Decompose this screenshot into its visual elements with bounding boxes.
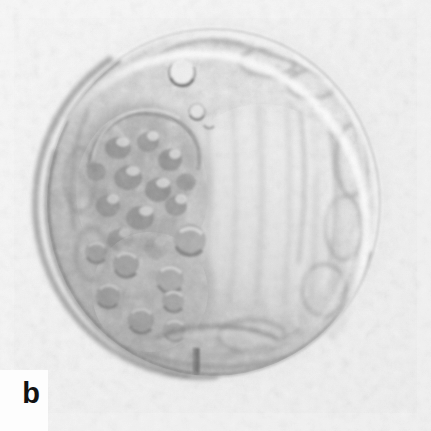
grain-texture <box>0 0 431 431</box>
micrograph-figure: b <box>0 0 431 431</box>
micrograph-image <box>0 0 431 431</box>
panel-label: b <box>14 376 48 410</box>
